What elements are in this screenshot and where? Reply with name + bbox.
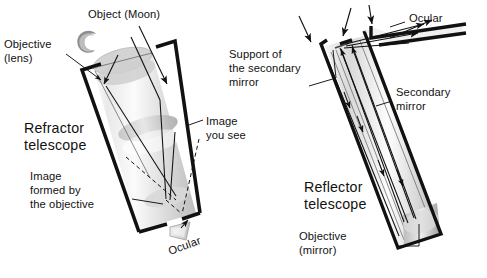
label-objective-lens-line2: (lens): [4, 52, 33, 64]
label-refractor-name-line2: telescope: [24, 137, 87, 153]
label-support-line2: the secondary: [229, 62, 301, 74]
reflector-tube-body: [325, 36, 441, 247]
label-image-formed-line3: the objective: [30, 198, 94, 210]
leader-ocular: [390, 22, 405, 27]
label-reflector-name-line2: telescope: [304, 196, 367, 212]
refl-in-ray-3: [369, 5, 372, 24]
label-objective-lens-line1: Objective: [4, 38, 52, 50]
refl-in-ray-1: [299, 16, 311, 42]
reflector-incoming-rays: [299, 5, 372, 42]
label-support-line3: mirror: [229, 76, 259, 88]
label-object-moon: Object (Moon): [88, 8, 160, 20]
label-secondary-line2: mirror: [396, 100, 426, 112]
label-objective-mirror-line2: (mirror): [299, 244, 337, 256]
label-image-formed-line1: Image: [30, 170, 62, 182]
diagram-canvas: Object (Moon) Objective (lens) Refractor…: [0, 0, 487, 278]
label-image-you-see-line1: Image: [206, 115, 238, 127]
label-reflector-name-line1: Reflector: [304, 179, 363, 195]
label-refractor-name-line1: Refractor: [24, 120, 84, 136]
telescope-comparison-figure: Object (Moon) Objective (lens) Refractor…: [0, 0, 487, 278]
label-reflector-ocular: Ocular: [409, 12, 443, 24]
label-image-you-see-line2: you see: [206, 129, 246, 141]
label-secondary-line1: Secondary: [396, 86, 451, 98]
label-image-formed-line2: formed by: [30, 184, 81, 196]
label-objective-mirror-line1: Objective: [299, 230, 347, 242]
refl-in-ray-2: [343, 8, 351, 36]
crescent-moon-icon: [77, 31, 96, 53]
label-support-line1: Support of: [229, 48, 282, 60]
